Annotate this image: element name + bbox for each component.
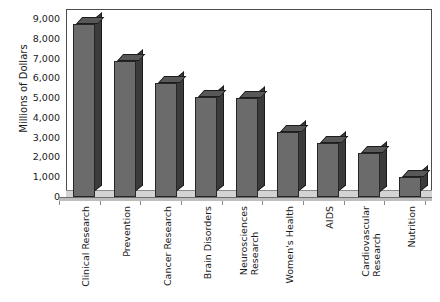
x-axis-label-line: Brain Disorders	[202, 206, 213, 279]
x-axis-label-line: Neurosciences	[238, 206, 249, 275]
x-axis-label: NeurosciencesResearch	[238, 206, 260, 275]
x-axis-label-line: Research	[371, 206, 382, 277]
x-tick-mark	[181, 201, 182, 205]
x-axis-label-line: Prevention	[121, 206, 132, 257]
x-axis-label: Women's Health	[284, 206, 295, 284]
x-tick-mark	[59, 201, 60, 205]
bar-chart: National Institutes of Health Research F…	[0, 0, 440, 302]
x-axis-label: Brain Disorders	[202, 206, 213, 279]
x-tick-mark	[100, 201, 101, 205]
x-axis-label: AIDS	[324, 206, 335, 229]
x-axis-labels: Clinical ResearchPreventionCancer Resear…	[0, 206, 440, 302]
x-axis-label-line: Research	[249, 206, 260, 275]
x-tick-mark	[140, 201, 141, 205]
x-axis-label: Nutrition	[406, 206, 417, 248]
x-tick-mark	[303, 201, 304, 205]
x-tick-mark	[222, 201, 223, 205]
x-axis-label: Cancer Research	[162, 206, 173, 286]
x-axis-label: CardiovascularResearch	[360, 206, 382, 277]
x-tick-mark	[425, 201, 426, 205]
x-axis-label-line: Nutrition	[406, 206, 417, 248]
x-axis-label-line: Clinical Research	[80, 206, 91, 287]
x-axis-label-line: Women's Health	[284, 206, 295, 284]
x-axis-label-line: Cancer Research	[162, 206, 173, 286]
x-axis-label: Prevention	[121, 206, 132, 257]
x-tick-mark	[384, 201, 385, 205]
x-axis-label: Clinical Research	[80, 206, 91, 287]
x-tick-mark	[262, 201, 263, 205]
x-axis-label-line: AIDS	[324, 206, 335, 229]
x-tick-mark	[344, 201, 345, 205]
x-axis-label-line: Cardiovascular	[360, 206, 371, 277]
